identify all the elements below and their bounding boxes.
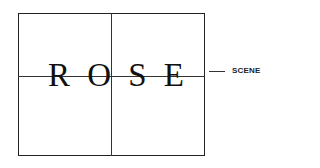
title-letter: O <box>87 59 111 92</box>
title-text: R O S E <box>48 58 184 92</box>
title-letter: E <box>164 59 184 92</box>
title-letter: S <box>128 59 146 92</box>
label-leader-line <box>209 71 225 72</box>
title-letter: R <box>48 59 70 92</box>
scene-label: SCENE <box>232 66 261 75</box>
